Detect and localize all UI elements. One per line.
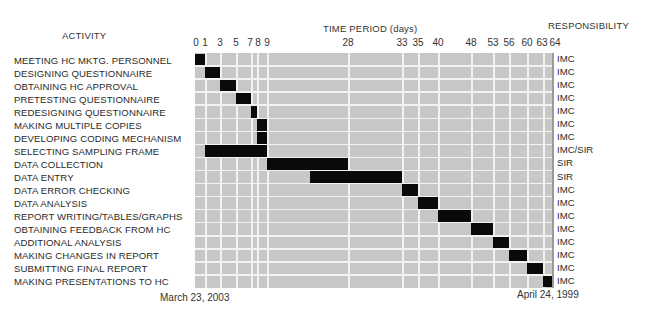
task-bar [257,119,267,131]
task-bar [251,106,257,118]
task-bar [267,158,348,170]
responsibility-label: IMC [557,66,575,77]
responsibility-label: IMC [557,105,575,116]
responsibility-header: RESPONSIBILITY [548,20,629,31]
responsibility-label: IMC [557,53,575,64]
activity-label: MAKING CHANGES IN REPORT [14,250,159,261]
activity-label: REPORT WRITING/TABLES/GRAPHS [14,211,183,222]
responsibility-label: IMC [557,131,575,142]
x-tick-label: 5 [233,37,239,48]
grid-hline [195,248,552,250]
task-bar [257,132,267,144]
task-bar [527,263,543,275]
task-bar [438,210,471,222]
activity-label: MAKING MULTIPLE COPIES [14,120,142,131]
responsibility-label: IMC [557,118,575,129]
x-tick-label: 9 [264,37,270,48]
task-bar [220,80,236,92]
x-tick-label: 33 [396,37,407,48]
task-bar [195,54,205,66]
end-date-label: April 24, 1999 [517,289,579,300]
gantt-chart-area [195,53,552,288]
activity-label: OBTAINING HC APPROVAL [14,81,138,92]
x-tick-label: 0 [193,37,199,48]
x-axis-ticks: 013578928333540485356606364 [0,37,649,51]
task-bar [509,250,527,262]
responsibility-label: IMC [557,184,575,195]
x-tick-label: 63 [536,37,547,48]
x-tick-label: 35 [412,37,423,48]
responsibility-label: IMC [557,92,575,103]
activity-label: DATA ANALYSIS [14,198,87,209]
responsibility-label: SIR [557,171,573,182]
activity-label: OBTAINING FEEDBACK FROM HC [14,224,170,235]
task-bar [205,145,267,157]
task-bar [402,184,418,196]
x-tick-label: 60 [521,37,532,48]
activity-label: DATA ERROR CHECKING [14,185,130,196]
start-date-label: March 23, 2003 [160,292,230,303]
activity-label: DESIGNING QUESTIONNAIRE [14,68,152,79]
activity-label: MEETING HC MKTG. PERSONNEL [14,55,172,66]
activity-label: ADDITIONAL ANALYSIS [14,237,121,248]
responsibility-label: IMC [557,197,575,208]
x-tick-label: 53 [487,37,498,48]
task-bar [471,223,493,235]
x-tick-label: 64 [549,37,560,48]
activity-label: SUBMITTING FINAL REPORT [14,263,147,274]
activity-label: DATA ENTRY [14,172,74,183]
responsibility-label: IMC [557,236,575,247]
grid-hline [195,104,552,106]
grid-hline [195,183,552,185]
activity-label: DEVELOPING CODING MECHANISM [14,133,181,144]
grid-hline [195,274,552,276]
task-bar [205,67,220,79]
task-bar [418,197,438,209]
x-tick-label: 40 [432,37,443,48]
responsibility-label: IMC [557,249,575,260]
responsibility-label: IMC [557,275,575,286]
grid-hline [195,65,552,67]
task-bar [543,276,552,288]
grid-hline [195,261,552,263]
grid-hline [195,157,552,159]
grid-hline [195,222,552,224]
grid-hline [195,118,552,120]
activity-label: PRETESTING QUESTIONNAIRE [14,94,160,105]
responsibility-label: IMC [557,262,575,273]
x-tick-label: 48 [465,37,476,48]
activity-label: MAKING PRESENTATIONS TO HC [14,276,169,287]
activity-label: SELECTING SAMPLING FRAME [14,146,159,157]
responsibility-label: SIR [557,157,573,168]
responsibility-label: IMC [557,210,575,221]
task-bar [310,171,402,183]
x-tick-label: 8 [255,37,261,48]
grid-hline [195,196,552,198]
activity-label: DATA COLLECTION [14,159,103,170]
grid-hline [195,78,552,80]
x-tick-label: 56 [503,37,514,48]
activity-label: REDESIGNING QUESTIONNAIRE [14,107,166,118]
task-bar [236,93,251,105]
time-period-header: TIME PERIOD (days) [323,23,417,34]
x-tick-label: 3 [217,37,223,48]
x-tick-label: 7 [247,37,253,48]
x-tick-label: 1 [202,37,208,48]
x-tick-label: 28 [342,37,353,48]
responsibility-label: IMC/SIR [557,144,593,155]
grid-hline [195,209,552,211]
responsibility-label: IMC [557,223,575,234]
chart-right-edge [552,53,554,288]
grid-hline [195,131,552,133]
task-bar [493,237,509,249]
responsibility-label: IMC [557,79,575,90]
